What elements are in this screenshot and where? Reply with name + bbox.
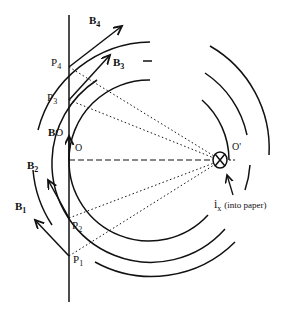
vector-b1: [35, 220, 69, 256]
field-line-middle: [52, 80, 225, 262]
label-p1: P1: [73, 254, 83, 265]
label-p3: P3: [47, 92, 57, 103]
label-b1: B1: [15, 201, 26, 212]
label-p2: P2: [72, 220, 82, 231]
field-diagram: [0, 0, 287, 313]
label-b4: B4: [89, 15, 100, 26]
label-current: ix (into paper): [214, 198, 267, 210]
label-b2: B2: [27, 160, 38, 171]
label-b3: B3: [113, 57, 124, 68]
label-center: O': [232, 142, 241, 152]
label-p4: P4: [51, 57, 61, 68]
current-into-paper-icon: [213, 152, 227, 168]
label-origin: O: [75, 143, 82, 153]
label-b0: BO: [48, 127, 63, 138]
vector-b2: [48, 180, 69, 218]
